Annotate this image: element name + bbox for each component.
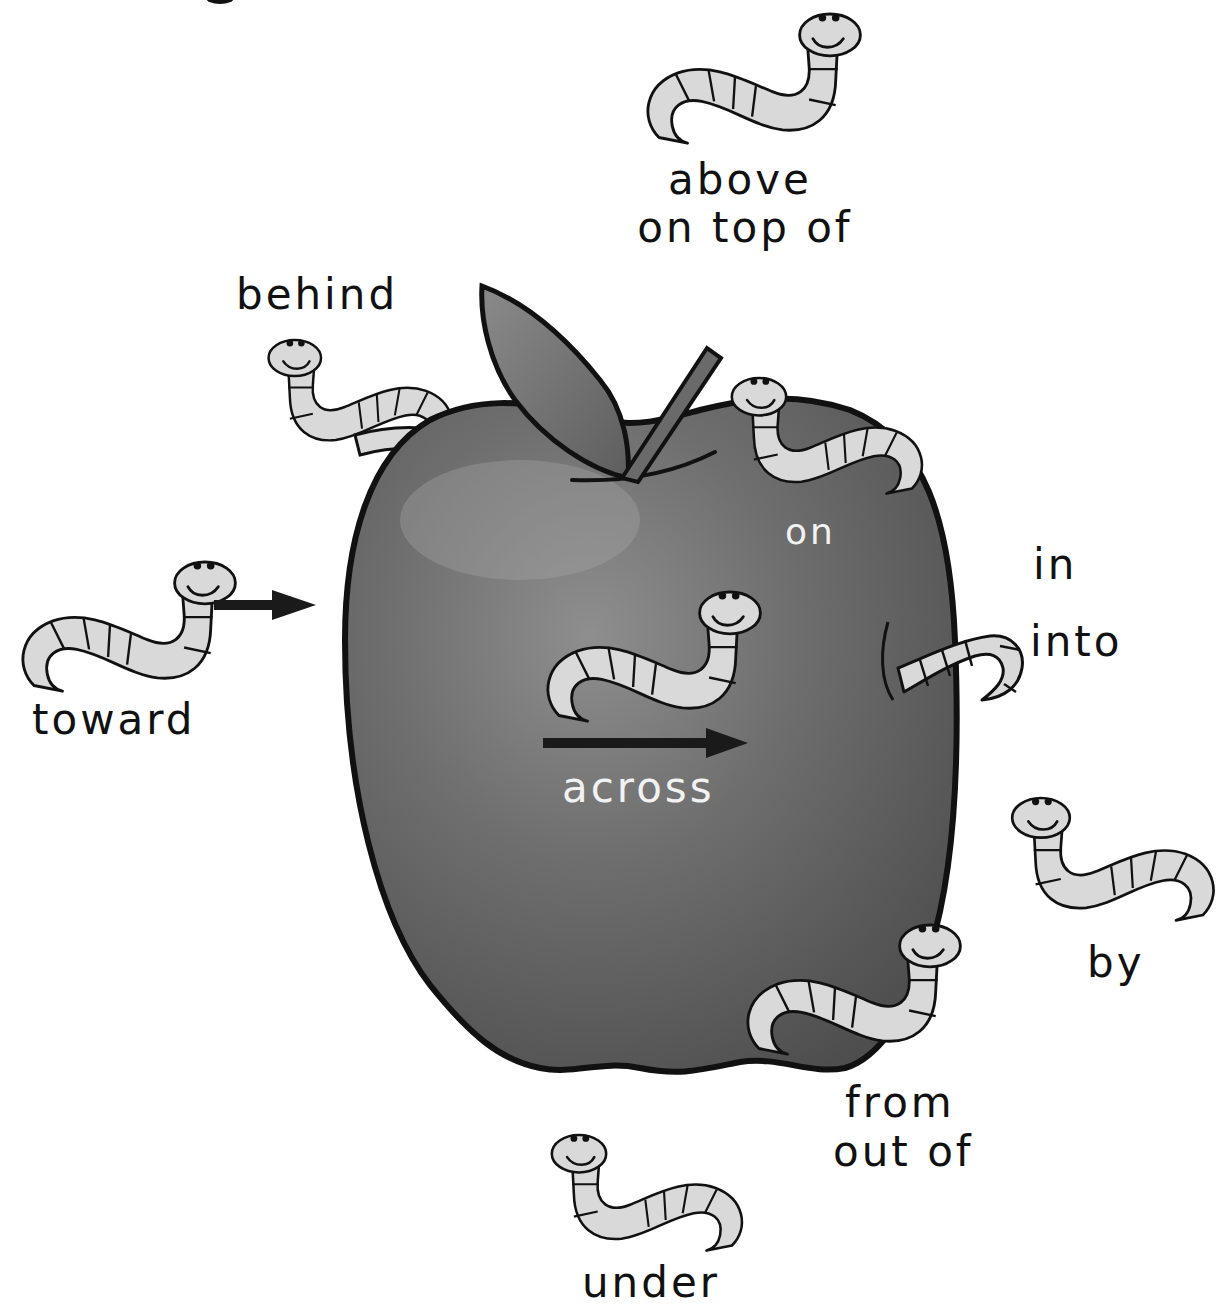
worm-icon [648, 14, 861, 143]
label-under: under [582, 1258, 720, 1308]
worm-icon [1012, 798, 1213, 920]
worm-icon [23, 562, 236, 691]
label-in: in [1033, 540, 1077, 590]
label-behind: behind [236, 270, 398, 320]
label-across: across [562, 763, 715, 813]
apple-icon [345, 398, 957, 1071]
label-out-of: out of [833, 1127, 974, 1177]
prepositions-diagram: above on top of behind on in into toward… [0, 0, 1223, 1315]
worm-icon [552, 1135, 742, 1251]
label-above: above [668, 155, 812, 205]
label-from: from [845, 1078, 955, 1128]
label-on: on [785, 507, 836, 557]
label-toward: toward [32, 695, 195, 745]
label-by: by [1087, 938, 1145, 988]
cropped-glyph [206, 0, 234, 4]
label-into: into [1030, 617, 1122, 667]
label-on-top-of: on top of [637, 203, 852, 253]
